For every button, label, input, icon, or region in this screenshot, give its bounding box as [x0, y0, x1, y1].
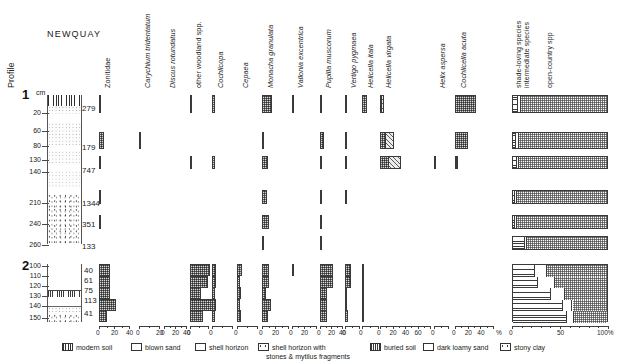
bar-p2-3-3 [190, 299, 213, 311]
x-tick-11-3 [399, 326, 400, 328]
summary-intermediate-p2-1 [538, 277, 555, 289]
x-tick-0-3 [122, 326, 123, 328]
x-tick-label-13-1: 20 [465, 329, 472, 336]
taxon-label-9: Vertigo pygmaea [349, 32, 358, 88]
x-tick-label-10-0: 0 [359, 329, 363, 336]
bar-p2-4-3 [212, 299, 216, 311]
bar-p2-3-2 [190, 287, 201, 299]
bar-p2-6-4 [262, 310, 268, 322]
bar-p1-13-0 [455, 95, 476, 113]
summary-x-tick-9 [598, 326, 599, 328]
bar-p1-1-1 [139, 132, 141, 149]
bar-p2-5-2 [237, 287, 241, 299]
bar-p2-0-0 [99, 264, 110, 276]
x-tick-label-1-0: 0 [136, 329, 140, 336]
lith-seg-shell-top [48, 106, 81, 114]
x-tick-label-11-2: 40 [402, 329, 409, 336]
x-tick-9-1 [352, 326, 353, 328]
depth-label-p1-6: 240 [16, 220, 41, 227]
summary-intermediate-p2-3 [563, 300, 573, 312]
bar-p2-10-2 [362, 287, 364, 299]
summary-shade-p2-0 [513, 265, 535, 277]
x-tick-1-1 [149, 326, 150, 328]
summary-intermediate-p2-0 [535, 265, 547, 277]
bar-p1-0-1 [99, 132, 104, 149]
x-tick-7-3 [310, 326, 311, 328]
x-tick-label-8-1: 20 [328, 329, 335, 336]
x-tick-label-6-0: 0 [259, 329, 263, 336]
bar-p2-7-0 [292, 264, 294, 276]
legend-swatch-dark-loamy-sand [423, 343, 434, 351]
sample-count-p1-1: 179 [82, 143, 95, 152]
bar-p1-11-2-lead [380, 156, 389, 169]
lithology-column-profile-1-lower [47, 208, 82, 244]
x-tick-label-2-1: 20 [172, 329, 179, 336]
x-tick-label-5-0: 0 [234, 329, 238, 336]
bar-p2-0-2 [99, 287, 110, 299]
bar-p1-8-3 [320, 190, 322, 204]
bar-p1-6-5 [262, 236, 264, 250]
depth-label-p1-0: 20 [16, 109, 41, 116]
x-tick-12-1 [441, 326, 442, 328]
bar-p2-6-1 [262, 276, 269, 288]
legend-label-buried-soil: buried soil [384, 344, 416, 351]
x-tick-13-5 [487, 326, 488, 328]
summary-label-0: shade-loving species [515, 21, 522, 88]
bar-p2-5-3 [237, 299, 240, 311]
legend-label-blown-sand: blown sand [145, 344, 180, 351]
bar-p1-8-1 [320, 132, 324, 149]
depth-label-p1-2: 80 [16, 142, 41, 149]
x-tick-label-2-0: 0 [161, 329, 165, 336]
x-tick-13-6 [493, 326, 494, 329]
lith-seg-shell-mid2 [48, 151, 81, 165]
taxon-label-11: Helicella virgata [384, 36, 393, 88]
bar-p2-8-0 [320, 264, 333, 276]
depth-tick-p1-5 [42, 203, 49, 204]
bar-p2-5-1 [237, 276, 240, 288]
bar-p2-0-4 [99, 310, 107, 322]
legend-swatch-buried-soil [370, 343, 381, 351]
depth-tick-p1-1 [42, 131, 49, 132]
lith-seg-p2-blown-sand [48, 264, 81, 290]
depth-tick-p2-1 [42, 276, 49, 277]
bar-p1-0-4 [99, 215, 101, 229]
summary-open-p2-1 [555, 277, 607, 289]
x-tick-12-2 [448, 326, 449, 329]
bar-p1-6-0 [262, 95, 272, 113]
summary-shade-p2-1 [513, 277, 538, 289]
depth-label-p1-7: 260 [16, 241, 41, 248]
summary-label-1: intermediate species [523, 22, 530, 88]
summary-open-p1-4 [517, 216, 607, 228]
bar-p1-3-2 [190, 156, 192, 169]
depth-label-p2-4: 140 [16, 302, 41, 309]
bar-p1-3-0 [190, 95, 192, 113]
x-tick-label-13-2: 40 [477, 329, 484, 336]
sample-count-p2-3: 113 [84, 296, 97, 305]
bar-p2-10-1 [362, 276, 364, 288]
bar-p2-9-3 [345, 299, 347, 311]
legend-label-stony-clay: stony clay [514, 344, 545, 351]
bar-p2-0-1 [99, 276, 110, 288]
bar-p1-8-2 [320, 156, 322, 169]
x-tick-label-9-0: 0 [342, 329, 346, 336]
depth-label-p1-5: 210 [16, 199, 41, 206]
depth-tick-p1-0 [42, 113, 49, 114]
bar-p2-3-4 [190, 310, 203, 322]
x-tick-label-4-0: 0 [209, 329, 213, 336]
bar-p2-3-0 [190, 264, 210, 276]
profile-1-number: 1 [22, 87, 29, 102]
depth-label-p2-0: 100 [16, 262, 41, 269]
summary-bar-p1-1 [512, 132, 608, 149]
summary-bar-p1-0 [512, 95, 608, 113]
sample-count-p1-5: 133 [82, 242, 95, 251]
summary-x-tick-1 [522, 326, 523, 328]
bar-p1-6-3 [262, 190, 267, 204]
bar-p1-7-0 [292, 95, 294, 113]
summary-x-tick-6 [570, 326, 571, 328]
legend-label-shell-horizon-stones-line2: stones & mytilus fragments [266, 353, 350, 360]
x-tick-7-1 [298, 326, 299, 328]
summary-x-tick-7 [579, 326, 580, 328]
taxon-label-12: Helix aspersa [438, 43, 447, 88]
depth-label-p2-1: 110 [16, 272, 41, 279]
bar-p1-0-3 [99, 190, 101, 204]
